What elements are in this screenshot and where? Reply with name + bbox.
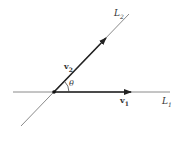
origin-point <box>52 90 56 94</box>
label-theta: θ <box>69 80 74 88</box>
label-L1: L1 <box>162 97 172 108</box>
vector-angle-diagram: L2 v2 θ v1 L1 <box>0 0 181 146</box>
label-v1: v1 <box>120 96 129 107</box>
vector-v2 <box>54 38 106 92</box>
label-L2: L2 <box>114 9 124 20</box>
diagram-graphic <box>0 0 181 146</box>
label-v2: v2 <box>64 62 73 73</box>
